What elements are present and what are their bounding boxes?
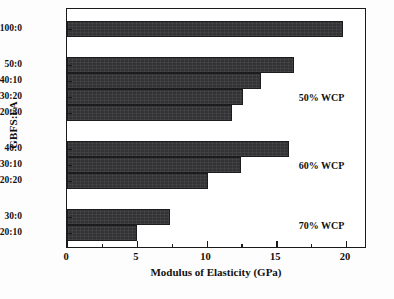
x-axis-title: Modulus of Elasticity (GPa) <box>66 266 366 278</box>
bar <box>67 105 232 121</box>
y-axis-tick <box>67 217 72 218</box>
x-axis-tick-label: 10 <box>200 251 211 262</box>
y-axis-tick <box>67 97 72 98</box>
group-annotation: 60% WCP <box>299 160 345 171</box>
y-axis-tick-label: 40:0 <box>5 143 22 153</box>
y-axis-tick-label: 40:10 <box>0 75 22 85</box>
x-axis-tick <box>346 241 347 247</box>
y-axis-tick-label: 30:10 <box>0 159 22 169</box>
x-axis-tick <box>207 241 208 247</box>
bar <box>67 173 208 189</box>
x-axis-tick <box>67 241 68 247</box>
x-axis-tick-label: 0 <box>63 251 68 262</box>
x-axis-tick-label: 20 <box>340 251 351 262</box>
y-axis-tick <box>67 181 72 182</box>
y-axis-tick <box>67 149 72 150</box>
plot-area: 50% WCP60% WCP70% WCP <box>66 8 366 248</box>
bar-series <box>67 9 365 247</box>
bar <box>67 157 241 173</box>
y-axis-tick <box>67 29 72 30</box>
chart-figure: GBFS:FA 50% WCP60% WCP70% WCP 05101520 1… <box>0 0 394 299</box>
bar <box>67 209 170 225</box>
y-axis-tick <box>67 65 72 66</box>
y-axis-tick-label: 20:10 <box>0 227 22 237</box>
group-annotation: 70% WCP <box>299 220 345 231</box>
x-axis-minor-tick <box>241 244 242 248</box>
bar <box>67 89 243 105</box>
y-axis-tick-label: 20:30 <box>0 107 22 117</box>
y-axis-tick <box>67 81 72 82</box>
y-axis-tick <box>67 165 72 166</box>
y-axis-tick <box>67 113 72 114</box>
bar <box>67 57 294 73</box>
y-axis-tick-label: 30:0 <box>5 211 22 221</box>
x-axis-tick-label: 15 <box>270 251 281 262</box>
bar <box>67 73 261 89</box>
x-axis-minor-tick <box>172 244 173 248</box>
x-axis-tick <box>137 241 138 247</box>
y-axis-tick-label: 100:0 <box>0 23 22 33</box>
y-axis-tick <box>67 233 72 234</box>
bar <box>67 225 137 241</box>
y-axis-tick-label: 30:20 <box>0 91 22 101</box>
x-axis-minor-tick <box>102 244 103 248</box>
y-axis-tick-label: 20:20 <box>0 175 22 185</box>
y-axis-tick-label: 50:0 <box>5 59 22 69</box>
x-axis-tick-label: 5 <box>133 251 138 262</box>
x-axis-title-text: Modulus of Elasticity (GPa) <box>150 266 281 278</box>
group-annotation: 50% WCP <box>299 92 345 103</box>
bar <box>67 21 343 37</box>
bar <box>67 141 289 157</box>
x-axis-tick <box>276 241 277 247</box>
x-axis-minor-tick <box>311 244 312 248</box>
